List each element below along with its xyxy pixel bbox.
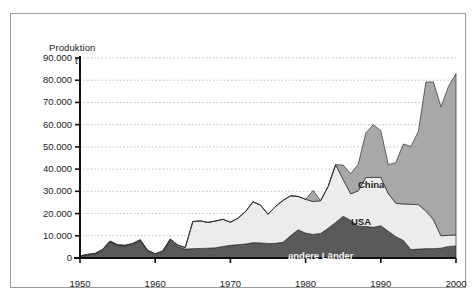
x-tick-label: 1950 (60, 278, 100, 289)
y-tick-label: 20.000 (26, 208, 72, 219)
y-axis-unit-label: t (75, 55, 78, 66)
x-tick-label: 1980 (286, 278, 326, 289)
x-tick-label: 1970 (210, 278, 250, 289)
y-tick-label: 40.000 (26, 163, 72, 174)
y-tick-label: 80.000 (26, 74, 72, 85)
y-tick-label: 60.000 (26, 119, 72, 130)
y-tick-label: 10.000 (26, 230, 72, 241)
series-label-andere-laender: andere Länder (288, 250, 353, 261)
chart-frame: Produktion t China USA andere Länder 010… (10, 13, 466, 288)
x-tick-label: 1990 (361, 278, 401, 289)
chart-canvas (11, 14, 465, 287)
x-tick-label: 2000 (436, 278, 476, 289)
x-tick-label: 1960 (135, 278, 175, 289)
series-label-usa: USA (351, 216, 371, 227)
figure-root: Produktion t China USA andere Länder 010… (0, 0, 476, 296)
y-tick-label: 50.000 (26, 141, 72, 152)
y-tick-label: 90.000 (26, 52, 72, 63)
y-tick-label: 70.000 (26, 96, 72, 107)
series-label-china: China (358, 179, 384, 190)
y-tick-label: 30.000 (26, 185, 72, 196)
y-tick-label: 0 (26, 252, 72, 263)
